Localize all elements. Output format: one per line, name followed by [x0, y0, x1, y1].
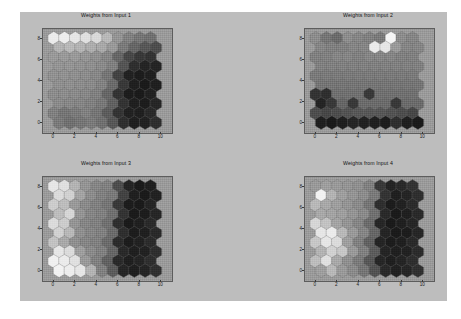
- y-tick-mark: [302, 80, 304, 81]
- x-tick-mark: [117, 280, 118, 282]
- x-tick-label: 0: [313, 134, 316, 139]
- subplot-panel-4: Weights from Input 4 024681002468: [288, 160, 448, 298]
- y-tick-mark: [302, 122, 304, 123]
- y-tick-mark: [40, 207, 42, 208]
- x-tick-label: 4: [356, 134, 359, 139]
- y-tick-label: 0: [33, 119, 40, 124]
- y-tick-label: 2: [295, 246, 302, 251]
- x-tick-mark: [379, 132, 380, 134]
- x-tick-label: 10: [158, 282, 163, 287]
- x-tick-mark: [96, 132, 97, 134]
- subplot-title-1: Weights from Input 1: [26, 12, 186, 18]
- y-tick-label: 6: [33, 205, 40, 210]
- hexgrid-panel-3: [43, 177, 172, 281]
- x-tick-label: 4: [94, 282, 97, 287]
- x-tick-label: 6: [378, 282, 381, 287]
- y-tick-label: 6: [295, 57, 302, 62]
- subplot-panel-3: Weights from Input 3 024681002468: [26, 160, 186, 298]
- x-tick-mark: [139, 132, 140, 134]
- y-tick-label: 8: [33, 36, 40, 41]
- y-tick-label: 8: [33, 184, 40, 189]
- x-tick-label: 2: [73, 134, 76, 139]
- y-tick-label: 4: [295, 226, 302, 231]
- x-tick-label: 10: [158, 134, 163, 139]
- y-tick-mark: [40, 80, 42, 81]
- x-tick-mark: [96, 280, 97, 282]
- hexgrid-panel-4: [305, 177, 434, 281]
- subplot-title-4: Weights from Input 4: [288, 160, 448, 166]
- x-tick-label: 8: [399, 282, 402, 287]
- x-tick-mark: [53, 280, 54, 282]
- subplot-panel-1: Weights from Input 1 024681002468: [26, 12, 186, 148]
- x-tick-mark: [336, 132, 337, 134]
- y-tick-mark: [302, 101, 304, 102]
- x-tick-mark: [358, 280, 359, 282]
- y-tick-label: 0: [295, 119, 302, 124]
- x-tick-label: 10: [420, 134, 425, 139]
- x-tick-mark: [53, 132, 54, 134]
- x-tick-mark: [74, 132, 75, 134]
- hex-plane-svg: [305, 29, 434, 133]
- x-tick-mark: [422, 132, 423, 134]
- y-tick-mark: [40, 228, 42, 229]
- x-tick-label: 10: [420, 282, 425, 287]
- x-tick-label: 4: [94, 134, 97, 139]
- x-tick-label: 2: [73, 282, 76, 287]
- y-tick-label: 6: [33, 57, 40, 62]
- y-tick-mark: [40, 122, 42, 123]
- y-tick-mark: [302, 249, 304, 250]
- x-tick-mark: [358, 132, 359, 134]
- y-tick-label: 0: [33, 267, 40, 272]
- x-tick-mark: [74, 280, 75, 282]
- x-tick-mark: [160, 132, 161, 134]
- axes-panel-1: [42, 28, 173, 134]
- subplot-title-2: Weights from Input 2: [288, 12, 448, 18]
- x-tick-label: 6: [116, 282, 119, 287]
- y-tick-mark: [302, 207, 304, 208]
- axes-panel-3: [42, 176, 173, 282]
- x-tick-label: 2: [335, 134, 338, 139]
- y-tick-label: 4: [33, 78, 40, 83]
- y-tick-mark: [40, 186, 42, 187]
- y-tick-label: 2: [33, 98, 40, 103]
- y-tick-label: 4: [295, 78, 302, 83]
- y-tick-label: 2: [295, 98, 302, 103]
- x-tick-label: 2: [335, 282, 338, 287]
- y-tick-mark: [40, 270, 42, 271]
- hex-plane-svg: [43, 29, 172, 133]
- y-tick-mark: [302, 228, 304, 229]
- x-tick-mark: [139, 280, 140, 282]
- hex-plane-svg: [305, 177, 434, 281]
- y-tick-label: 8: [295, 184, 302, 189]
- x-tick-label: 0: [51, 134, 54, 139]
- axes-panel-2: [304, 28, 435, 134]
- x-tick-mark: [401, 132, 402, 134]
- y-tick-mark: [302, 270, 304, 271]
- x-tick-label: 0: [313, 282, 316, 287]
- subplot-title-3: Weights from Input 3: [26, 160, 186, 166]
- x-tick-mark: [117, 132, 118, 134]
- y-tick-mark: [302, 38, 304, 39]
- x-tick-label: 4: [356, 282, 359, 287]
- y-tick-mark: [40, 249, 42, 250]
- y-tick-mark: [40, 38, 42, 39]
- axes-panel-4: [304, 176, 435, 282]
- subplot-panel-2: Weights from Input 2 024681002468: [288, 12, 448, 148]
- x-tick-mark: [379, 280, 380, 282]
- x-tick-label: 8: [137, 134, 140, 139]
- figure-canvas: Weights from Input 1 024681002468 Weight…: [20, 12, 447, 301]
- y-tick-mark: [302, 186, 304, 187]
- y-tick-label: 6: [295, 205, 302, 210]
- x-tick-label: 8: [399, 134, 402, 139]
- y-tick-label: 0: [295, 267, 302, 272]
- y-tick-label: 2: [33, 246, 40, 251]
- y-tick-label: 8: [295, 36, 302, 41]
- x-tick-label: 8: [137, 282, 140, 287]
- hex-plane-svg: [43, 177, 172, 281]
- hexgrid-panel-2: [305, 29, 434, 133]
- x-tick-mark: [336, 280, 337, 282]
- y-tick-label: 4: [33, 226, 40, 231]
- x-tick-mark: [401, 280, 402, 282]
- y-tick-mark: [302, 59, 304, 60]
- x-tick-label: 6: [378, 134, 381, 139]
